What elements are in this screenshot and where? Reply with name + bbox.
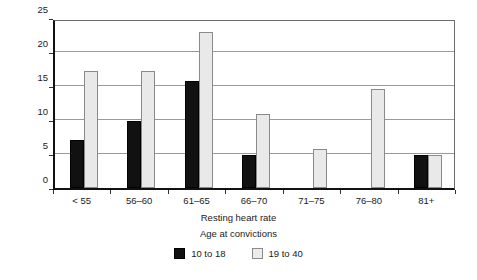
bar-group — [285, 21, 342, 188]
bar — [70, 140, 84, 188]
bar — [256, 114, 270, 188]
x-axis-ticks: < 5556–6061–6566–7071–7576–8081+ — [53, 190, 455, 212]
x-axis-tick-label: 71–75 — [281, 195, 341, 207]
bar — [185, 81, 199, 188]
x-axis-tick-mark — [168, 190, 169, 194]
bar-chart-figure: Percentage of males convicted 0510152025… — [0, 0, 477, 280]
x-axis-tick-mark — [398, 190, 399, 194]
x-axis-tick-mark — [283, 190, 284, 194]
bar — [414, 155, 428, 188]
bar — [84, 71, 98, 188]
bar — [428, 155, 442, 188]
y-axis-tick-label: 10 — [18, 107, 48, 117]
legend: 10 to 1819 to 40 — [0, 248, 477, 259]
y-axis-tick-label: 15 — [18, 73, 48, 83]
y-axis-tick-label: 20 — [18, 39, 48, 49]
legend-title: Age at convictions — [0, 228, 477, 240]
bar — [141, 71, 155, 188]
bar-group — [342, 21, 399, 188]
legend-item: 10 to 18 — [174, 248, 225, 259]
legend-label: 19 to 40 — [269, 248, 303, 259]
x-axis-tick-mark — [53, 190, 54, 194]
bar — [127, 121, 141, 188]
y-axis-tick-label: 25 — [18, 5, 48, 15]
x-axis-tick-mark — [225, 190, 226, 194]
x-axis-tick-label: 61–65 — [167, 195, 227, 207]
bar — [199, 32, 213, 188]
bar — [371, 89, 385, 188]
bar-group — [112, 21, 169, 188]
legend-item: 19 to 40 — [252, 248, 303, 259]
bar-series-layer — [55, 21, 454, 188]
x-axis-tick-label: 81+ — [396, 195, 456, 207]
legend-label: 10 to 18 — [191, 248, 225, 259]
y-axis-tick-label: 0 — [18, 175, 48, 185]
bar — [242, 155, 256, 188]
legend-swatch — [174, 248, 185, 259]
x-axis-tick-label: 76–80 — [339, 195, 399, 207]
plot-area — [53, 20, 455, 190]
x-axis-title: Resting heart rate — [0, 212, 477, 224]
x-axis-tick-mark — [455, 190, 456, 194]
y-axis-tick-label: 5 — [18, 141, 48, 151]
x-axis-tick-mark — [340, 190, 341, 194]
bar-group — [227, 21, 284, 188]
bar-group — [400, 21, 457, 188]
x-axis-tick-label: < 55 — [52, 195, 112, 207]
x-axis-tick-label: 66–70 — [224, 195, 284, 207]
x-axis-tick-label: 56–60 — [109, 195, 169, 207]
x-axis-tick-mark — [110, 190, 111, 194]
bar-group — [170, 21, 227, 188]
y-axis-ticks: 0510152025 — [14, 20, 48, 190]
bar-group — [55, 21, 112, 188]
bar — [313, 149, 327, 188]
legend-swatch — [252, 248, 263, 259]
